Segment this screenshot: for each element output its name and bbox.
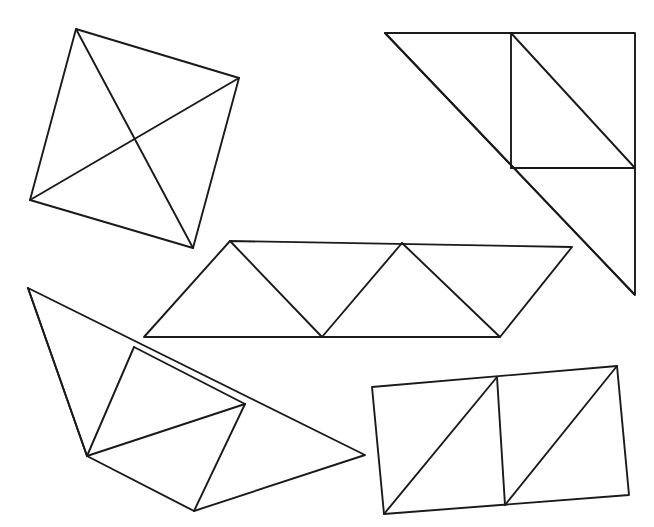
geometric-figures-svg xyxy=(0,0,654,527)
figure-rectangle-two-squares-with-diagonals xyxy=(372,366,629,514)
figure-canvas-container xyxy=(0,0,654,527)
